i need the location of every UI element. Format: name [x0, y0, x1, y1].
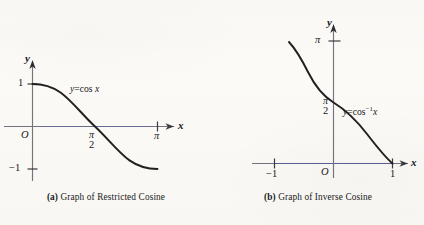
equation-var-b: x [373, 106, 377, 117]
x-axis-label-a: x [178, 120, 184, 131]
curve-equation-a: y=cos x [70, 84, 99, 94]
equation-cos-a: cos [80, 83, 93, 94]
origin-label-b: O [321, 167, 329, 178]
caption-b-text: Graph of Inverse Cosine [278, 192, 372, 202]
y-axis-label-b: y [327, 17, 332, 28]
two-denominator-a: 2 [88, 140, 95, 151]
tick-label-y-pi-b: π [315, 35, 320, 46]
tick-label-x-pi-over-2-a: π 2 [88, 130, 95, 151]
curve-equation-b: y=cos−1x [343, 106, 377, 117]
tick-label-y-one-a: 1 [18, 78, 23, 89]
caption-b: (b) Graph of Inverse Cosine [212, 192, 424, 202]
inverse-cosine-curve [289, 42, 393, 164]
panel-inverse-cosine: y x O π π 2 −1 1 y=cos−1x (b) Graph of I… [212, 0, 424, 225]
caption-a: (a) Graph of Restricted Cosine [0, 192, 212, 202]
plot-restricted-cosine [0, 0, 212, 192]
caption-a-text: Graph of Restricted Cosine [61, 192, 166, 202]
tick-label-x-pi-a: π [154, 131, 159, 142]
two-denominator-b: 2 [322, 106, 329, 117]
tick-label-x-minus-one-b: −1 [266, 169, 277, 180]
plot-inverse-cosine [212, 0, 424, 192]
panel-restricted-cosine: y x O 1 −1 π 2 π y=cos x (a) Graph of Re… [0, 0, 212, 225]
tick-label-y-minus-one-a: −1 [9, 163, 20, 174]
y-axis-label-a: y [25, 53, 30, 64]
caption-a-prefix: (a) [47, 192, 58, 202]
x-axis-label-b: x [411, 157, 417, 168]
equation-cos-b: cos [353, 106, 366, 117]
equation-exponent-b: −1 [365, 105, 372, 113]
origin-label-a: O [21, 130, 29, 141]
tick-label-y-pi-over-2-b: π 2 [322, 96, 329, 117]
tick-label-x-one-b: 1 [390, 169, 395, 180]
figure-page: y x O 1 −1 π 2 π y=cos x (a) Graph of Re… [0, 0, 424, 225]
caption-b-prefix: (b) [264, 192, 276, 202]
equation-var-a: x [95, 83, 99, 94]
